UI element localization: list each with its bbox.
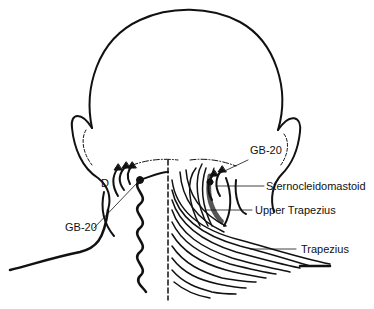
left-shoulder bbox=[10, 210, 108, 270]
head-neck-illustration bbox=[0, 0, 374, 309]
skull-outline bbox=[90, 10, 283, 130]
right-ear bbox=[272, 118, 300, 212]
label-gb20-right: GB-20 bbox=[250, 144, 282, 156]
label-d-marker: D bbox=[101, 177, 109, 189]
label-upper-trapezius: Upper Trapezius bbox=[255, 204, 336, 216]
label-sternocleidomastoid: Sternocleidomastoid bbox=[266, 180, 366, 192]
label-gb20-left: GB-20 bbox=[65, 221, 97, 233]
label-trapezius: Trapezius bbox=[301, 243, 349, 255]
wavy-nerve bbox=[137, 180, 146, 292]
